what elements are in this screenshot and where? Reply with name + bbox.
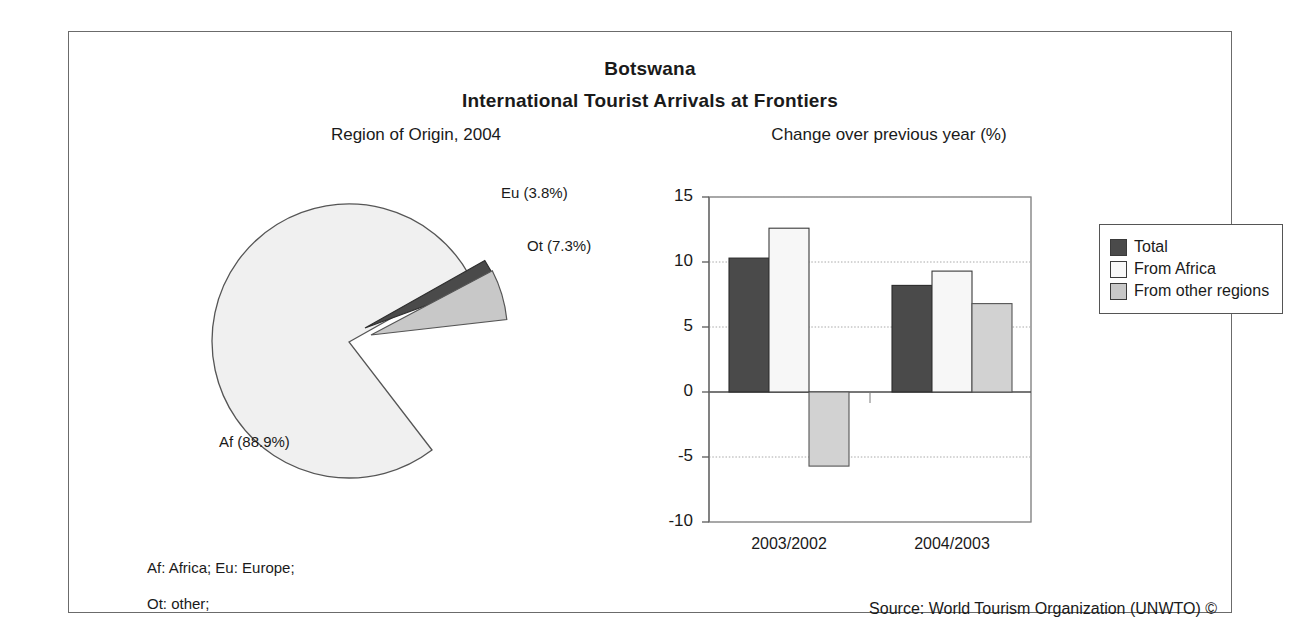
footnote-abbreviations-line-1: Af: Africa; Eu: Europe; xyxy=(147,559,295,576)
pie-chart-panel: Eu (3.8%) Ot (7.3%) Af (88.9%) xyxy=(179,152,659,522)
y-tick-5: 5 xyxy=(637,316,693,336)
legend-item-from-other-regions: From other regions xyxy=(1110,282,1269,300)
bar-total-2003-2002 xyxy=(729,258,769,392)
bar-chart-panel: 15 10 5 0 -5 -10 2003/2002 2004/2003 xyxy=(681,172,1101,592)
legend-label-total: Total xyxy=(1134,238,1168,256)
pie-label-other: Ot (7.3%) xyxy=(527,237,591,254)
y-tick-10: 10 xyxy=(637,251,693,271)
bar-chart-caption: Change over previous year (%) xyxy=(679,125,1099,145)
pie-label-africa: Af (88.9%) xyxy=(219,433,290,450)
y-tick-15: 15 xyxy=(637,186,693,206)
pie-chart-caption: Region of Origin, 2004 xyxy=(251,125,581,145)
bar-chart-legend: Total From Africa From other regions xyxy=(1099,224,1283,314)
bar-chart-graphic xyxy=(681,172,1101,592)
legend-swatch-from-africa xyxy=(1110,261,1127,278)
bar-from-other-regions-2003-2002 xyxy=(809,392,849,466)
y-tick-neg5: -5 xyxy=(637,446,693,466)
figure-frame: Botswana International Tourist Arrivals … xyxy=(68,31,1232,613)
bar-from-africa-2003-2002 xyxy=(769,228,809,392)
footnote-abbreviations-line-2: Ot: other; xyxy=(147,595,210,612)
legend-swatch-from-other-regions xyxy=(1110,283,1127,300)
x-tick-2004-2003: 2004/2003 xyxy=(882,535,1022,553)
legend-swatch-total xyxy=(1110,239,1127,256)
legend-item-total: Total xyxy=(1110,238,1269,256)
bar-from-africa-2004-2003 xyxy=(932,271,972,392)
y-tick-0: 0 xyxy=(637,381,693,401)
legend-label-from-africa: From Africa xyxy=(1134,260,1216,278)
bar-from-other-regions-2004-2003 xyxy=(972,304,1012,392)
figure-title-country: Botswana xyxy=(69,58,1231,80)
pie-label-europe: Eu (3.8%) xyxy=(501,184,568,201)
source-note: Source: World Tourism Organization (UNWT… xyxy=(869,600,1217,618)
bar-total-2004-2003 xyxy=(892,285,932,392)
legend-item-from-africa: From Africa xyxy=(1110,260,1269,278)
y-tick-neg10: -10 xyxy=(637,511,693,531)
figure-title-series: International Tourist Arrivals at Fronti… xyxy=(69,90,1231,112)
x-tick-2003-2002: 2003/2002 xyxy=(719,535,859,553)
y-axis-ticks xyxy=(702,197,709,522)
legend-label-from-other-regions: From other regions xyxy=(1134,282,1269,300)
pie-chart-graphic xyxy=(179,152,659,522)
